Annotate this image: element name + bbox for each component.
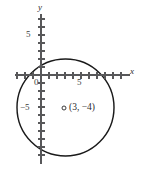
- plot-canvas: [0, 0, 148, 170]
- x-axis-label: x: [130, 67, 134, 76]
- point-marker-3-neg4: [62, 106, 66, 110]
- circle-graph-figure: y x 0 5 5 −5 (3, −4): [0, 0, 148, 170]
- x-tick-label-5: 5: [77, 78, 82, 87]
- y-axis-label: y: [38, 3, 42, 12]
- y-tick-label-5: 5: [26, 30, 31, 39]
- y-tick-label-neg5: −5: [20, 103, 30, 112]
- point-coordinate-label: (3, −4): [69, 103, 95, 113]
- origin-tick-label: 0: [34, 78, 39, 87]
